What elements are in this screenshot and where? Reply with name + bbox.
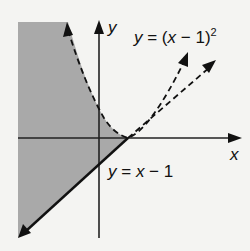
- y-axis-arrow-icon: [94, 20, 104, 34]
- eq-y: y: [108, 162, 117, 181]
- y-axis-label: y: [108, 18, 117, 38]
- eq-mid: =: [117, 162, 136, 181]
- eq-y: y: [134, 28, 143, 47]
- parabola-top-right-arrow-icon: [178, 52, 188, 67]
- eq-rest: − 1): [176, 28, 211, 47]
- line-equation-label: y = x − 1: [108, 162, 173, 182]
- eq-exp: 2: [211, 26, 217, 38]
- shaded-region: [18, 22, 128, 238]
- eq-x: x: [168, 28, 177, 47]
- x-axis-arrow-icon: [228, 133, 242, 143]
- line-dashed: [128, 67, 210, 138]
- parabola-equation-label: y = (x − 1)2: [134, 26, 217, 48]
- x-axis-label: x: [230, 145, 239, 165]
- eq-rest: − 1: [144, 162, 173, 181]
- eq-mid: = (: [143, 28, 168, 47]
- region-diagram: y x y = (x − 1)2 y = x − 1: [0, 0, 250, 251]
